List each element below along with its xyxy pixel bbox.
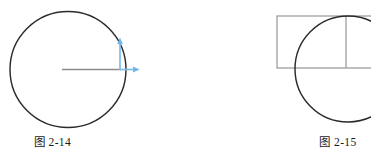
figure-2-14-caption: 图 2-14 — [0, 133, 145, 149]
figure-2-15-caption: 图 2-15 — [245, 133, 371, 149]
figure-2-14-drawing — [0, 0, 185, 155]
figure-2-15-panel: 图 2-15 — [185, 0, 371, 155]
horizontal-arrow-head — [133, 67, 140, 73]
figure-sheet: 图 2-14 图 2-15 — [0, 0, 371, 155]
horizontal-arrow — [120, 67, 140, 73]
vertical-arrow — [117, 38, 123, 71]
figure-2-15-drawing — [185, 0, 371, 155]
circle-outline — [295, 16, 371, 122]
figure-2-14-panel: 图 2-14 — [0, 0, 185, 155]
rectangle-outline — [277, 16, 371, 68]
